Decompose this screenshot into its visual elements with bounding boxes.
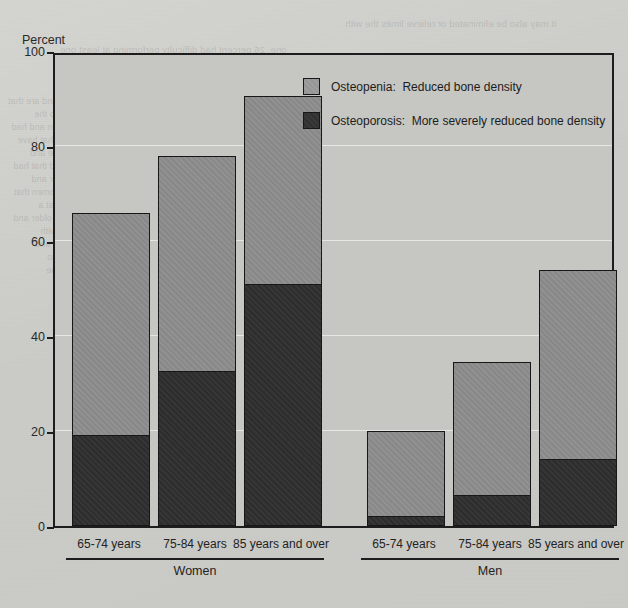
x-category-label-women-2: 85 years and over [221,537,341,551]
group-label-men: Men [430,564,550,578]
bar-segment-osteoporosis[interactable] [454,495,530,525]
bar-segment-osteoporosis[interactable] [245,284,321,525]
legend-swatch-osteopenia [303,78,320,95]
bar-segment-osteopenia[interactable] [368,432,444,516]
y-tick-label-80: 80 [5,140,45,154]
stacked-bar-chart: Percent 020406080100 Osteopenia: Reduced… [0,0,628,608]
bar-segment-osteoporosis[interactable] [540,459,616,525]
bar-women-65-74-years[interactable] [72,213,150,527]
bar-men-85-years-and-over[interactable] [539,270,617,527]
legend-label-osteoporosis: Osteoporosis: More severely reduced bone… [331,114,605,128]
bar-men-65-74-years[interactable] [367,431,445,526]
bar-segment-osteopenia[interactable] [454,363,530,494]
bar-segment-osteopenia[interactable] [73,214,149,436]
bar-segment-osteoporosis[interactable] [159,371,235,525]
group-label-women: Women [135,564,255,578]
y-tick-label-60: 60 [5,235,45,249]
bar-segment-osteoporosis[interactable] [73,435,149,525]
x-category-label-men-2: 85 years and over [516,537,628,551]
group-rule-women [66,558,324,560]
bar-segment-osteopenia[interactable] [159,157,235,372]
y-tick-label-100: 100 [5,45,45,59]
legend-label-osteopenia: Osteopenia: Reduced bone density [331,80,522,94]
legend-item-osteoporosis: Osteoporosis: More severely reduced bone… [303,112,605,129]
group-rule-men [361,558,619,560]
bar-segment-osteoporosis[interactable] [368,516,444,525]
bar-segment-osteopenia[interactable] [540,271,616,460]
x-axis: 65-74 years75-84 years85 years and over6… [0,528,628,608]
plot-area: Osteopenia: Reduced bone density Osteopo… [53,53,614,528]
y-tick-label-40: 40 [5,330,45,344]
legend: Osteopenia: Reduced bone density Osteopo… [303,78,605,146]
legend-swatch-osteoporosis [303,112,320,129]
bar-women-75-84-years[interactable] [158,156,236,527]
legend-item-osteopenia: Osteopenia: Reduced bone density [303,78,605,95]
y-tick-label-20: 20 [5,425,45,439]
bar-men-75-84-years[interactable] [453,362,531,526]
bar-women-85-years-and-over[interactable] [244,96,322,526]
